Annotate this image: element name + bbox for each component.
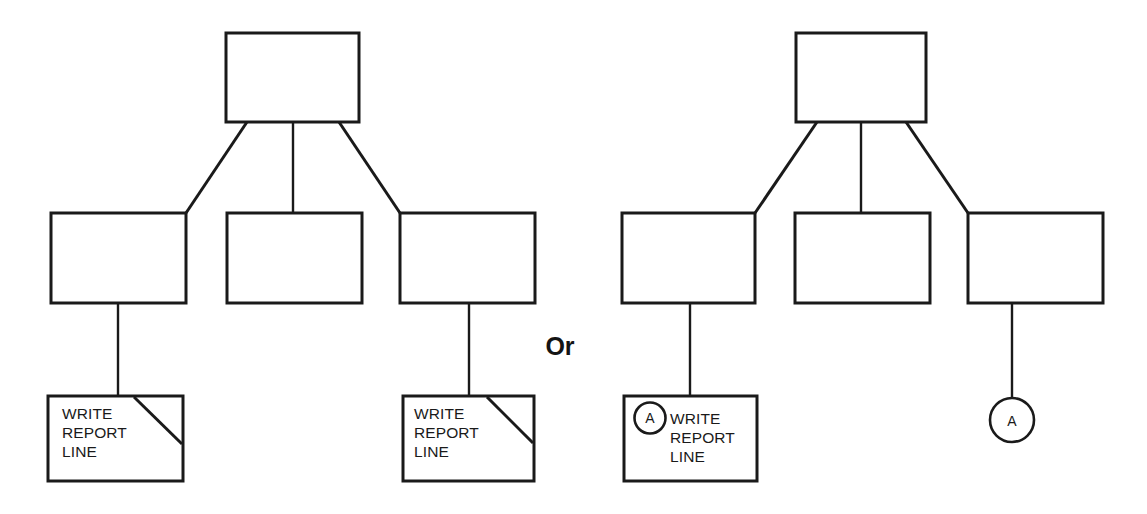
edge-left-root-to-child3 xyxy=(339,122,400,213)
module-label-line-3: LINE xyxy=(62,443,97,460)
edge-right-root-to-child3 xyxy=(906,122,968,213)
edge-left-root-to-child1 xyxy=(186,122,247,213)
off-page-connector-label: A xyxy=(1007,413,1017,429)
module-with-connector-right-leaf1[interactable]: A WRITE REPORT LINE xyxy=(624,396,757,481)
diagram-canvas: WRITE REPORT LINE WRITE REPORT LINE Or xyxy=(0,0,1147,514)
module-box-right-child2[interactable] xyxy=(795,213,930,303)
module-label-line-3: LINE xyxy=(414,443,449,460)
module-label-line-1: WRITE xyxy=(414,405,464,422)
module-box-left-root[interactable] xyxy=(226,33,359,122)
right-variant-group: A WRITE REPORT LINE A xyxy=(622,33,1103,481)
library-module-left-leaf2[interactable]: WRITE REPORT LINE xyxy=(403,396,534,481)
module-label-line-1: WRITE xyxy=(670,410,720,427)
off-page-connector-right-standalone[interactable]: A xyxy=(990,398,1034,442)
library-module-left-leaf1[interactable]: WRITE REPORT LINE xyxy=(48,396,183,481)
or-separator-label: Or xyxy=(545,332,574,360)
module-box-right-child1[interactable] xyxy=(622,213,755,303)
module-box-left-child1[interactable] xyxy=(51,213,186,303)
edge-right-root-to-child1 xyxy=(755,122,817,213)
module-label-line-1: WRITE xyxy=(62,405,112,422)
structure-chart-diagram: WRITE REPORT LINE WRITE REPORT LINE Or xyxy=(0,0,1147,514)
module-label-line-2: REPORT xyxy=(62,424,127,441)
off-page-connector-label: A xyxy=(645,410,655,426)
left-variant-group: WRITE REPORT LINE WRITE REPORT LINE xyxy=(48,33,535,481)
module-label-line-2: REPORT xyxy=(670,429,735,446)
module-box-right-child3[interactable] xyxy=(968,213,1103,303)
module-label-line-3: LINE xyxy=(670,448,705,465)
module-box-right-root[interactable] xyxy=(796,33,926,122)
module-box-left-child2[interactable] xyxy=(227,213,362,303)
module-label-line-2: REPORT xyxy=(414,424,479,441)
module-box-left-child3[interactable] xyxy=(400,213,535,303)
